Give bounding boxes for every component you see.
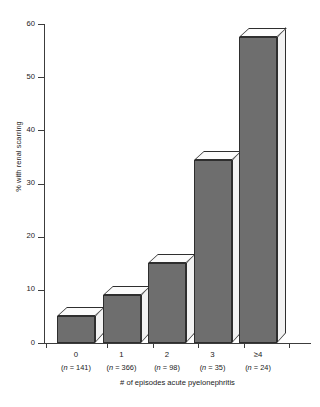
- y-tick-label: 60: [27, 19, 35, 28]
- bar-≥4: [239, 28, 277, 343]
- y-tick-60: 60: [38, 24, 45, 25]
- y-tick-label: 10: [27, 284, 35, 293]
- y-tick-20: 20: [38, 237, 45, 238]
- bar-front-face: [194, 160, 232, 343]
- y-tick-10: 10: [38, 290, 45, 291]
- x-tick: [198, 343, 199, 348]
- y-tick-label: 30: [27, 178, 35, 187]
- bar-front-face: [103, 295, 141, 343]
- bar-front-face: [57, 316, 95, 343]
- bar-chart: % with renal scarring 0102030405060 0(n …: [0, 0, 320, 407]
- y-tick-label: 40: [27, 125, 35, 134]
- x-category-≥4: ≥4(n = 24): [228, 350, 288, 372]
- y-tick-50: 50: [38, 77, 45, 78]
- y-tick-30: 30: [38, 184, 45, 185]
- bar-front-face: [239, 37, 277, 343]
- bar-1: [103, 286, 141, 343]
- bar-front-face: [148, 263, 186, 343]
- y-tick-label: 20: [27, 231, 35, 240]
- bar-3: [194, 151, 232, 343]
- y-tick-40: 40: [38, 130, 45, 131]
- y-tick-label: 50: [27, 72, 35, 81]
- x-tick: [244, 343, 245, 348]
- bar-side-face: [277, 27, 286, 343]
- x-axis-title: # of episodes acute pyelonephritis: [44, 378, 311, 387]
- bar-0: [57, 307, 95, 343]
- y-tick-label: 0: [31, 338, 35, 347]
- bar-2: [148, 254, 186, 343]
- x-tick-origin: [46, 343, 47, 348]
- x-tick: [289, 343, 290, 348]
- x-axis-line: [44, 343, 311, 344]
- x-tick: [107, 343, 108, 348]
- y-tick-0: 0: [38, 343, 45, 344]
- x-category-name: ≥4: [228, 350, 288, 359]
- x-category-sample-size: (n = 24): [228, 363, 288, 372]
- y-axis-title: % with renal scarring: [14, 92, 23, 222]
- x-tick: [153, 343, 154, 348]
